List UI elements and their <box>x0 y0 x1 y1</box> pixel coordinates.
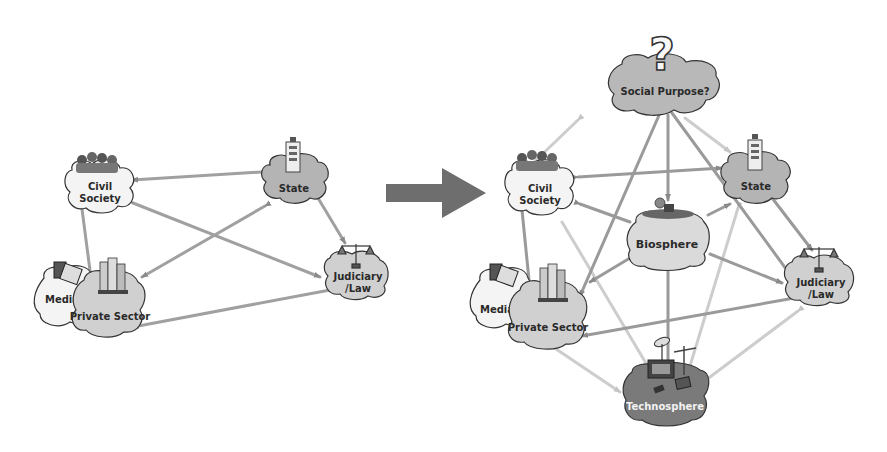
label-state: State <box>279 183 310 194</box>
node-biosphere: Biosphere <box>627 198 709 271</box>
label-society: Society <box>519 195 561 206</box>
building-icon <box>286 137 300 172</box>
node-state-right: State <box>721 134 790 203</box>
label-state: State <box>741 181 772 192</box>
link-judiciary-private <box>582 297 800 336</box>
link-state-judiciary <box>766 190 812 250</box>
node-social-purpose: ? Social Purpose? <box>608 29 719 115</box>
node-judiciary-right: Judiciary /Law <box>785 247 854 306</box>
label-civil: Civil <box>88 181 112 192</box>
label-civil: Civil <box>528 183 552 194</box>
label-technosphere: Technosphere <box>626 401 704 412</box>
label-private-sector: Private Sector <box>70 311 151 322</box>
right-arrow-icon <box>386 168 486 218</box>
question-mark-icon: ? <box>649 29 675 80</box>
transition-arrow <box>386 168 486 218</box>
node-civil-society: Civil Society <box>65 152 134 213</box>
link-civil-biosphere <box>580 204 630 222</box>
label-society: Society <box>79 193 121 204</box>
link-civil-state <box>578 168 722 177</box>
label-law: /Law <box>808 289 834 300</box>
node-state: State <box>262 137 329 203</box>
node-judiciary: Judiciary /Law <box>324 244 388 300</box>
link-judiciary-private <box>133 290 330 327</box>
link-private-techno <box>553 347 620 392</box>
label-biosphere: Biosphere <box>636 238 698 251</box>
office-buildings-icon <box>98 258 128 294</box>
link-state-civil <box>132 172 262 180</box>
label-private-sector: Private Sector <box>508 322 589 333</box>
svg-text:?: ? <box>649 29 675 80</box>
label-judiciary: Judiciary <box>796 277 846 288</box>
label-judiciary: Judiciary <box>333 271 383 282</box>
link-state-private <box>142 206 265 277</box>
left-diagram: Civil Society State Media <box>34 137 388 337</box>
office-buildings-icon <box>538 264 568 302</box>
diagram-canvas: Civil Society State Media <box>0 0 887 452</box>
building-icon <box>748 134 762 170</box>
link-judiciary-techno <box>706 311 798 380</box>
label-law: /Law <box>345 283 371 294</box>
label-social-purpose: Social Purpose? <box>620 86 709 97</box>
right-diagram: ? Social Purpose? Civil Society State <box>470 29 853 426</box>
link-biosphere-state <box>708 204 730 215</box>
node-civil-society-right: Civil Society <box>505 150 574 215</box>
link-social-state <box>685 118 730 152</box>
